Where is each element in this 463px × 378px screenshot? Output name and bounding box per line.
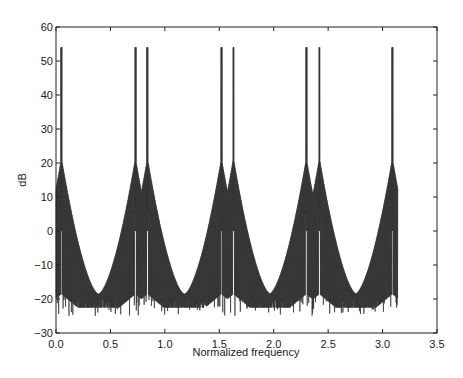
y-tick-label: 10 xyxy=(41,191,53,203)
magnitude-line xyxy=(56,47,398,315)
y-tick-label: 60 xyxy=(41,21,53,33)
y-tick-label: −20 xyxy=(34,293,53,305)
y-tick-label: 0 xyxy=(47,225,53,237)
x-tick-label: 0.5 xyxy=(103,338,118,350)
x-tick-label: 3.0 xyxy=(375,338,390,350)
chart: 0.00.51.01.52.02.53.03.5 6050403020100−1… xyxy=(0,0,463,378)
plot-series xyxy=(56,47,398,315)
y-tick-label: 20 xyxy=(41,157,53,169)
x-tick-label: 3.5 xyxy=(429,338,444,350)
x-tick-label: 2.5 xyxy=(320,338,335,350)
y-tick-label: −10 xyxy=(34,259,53,271)
y-axis-label: dB xyxy=(16,173,28,186)
y-tick-label: 30 xyxy=(41,123,53,135)
x-tick-label: 0.0 xyxy=(48,338,63,350)
y-tick-label: −30 xyxy=(34,327,53,339)
y-tick-label: 50 xyxy=(41,55,53,67)
x-axis-label: Normalized frequency xyxy=(193,346,300,358)
y-tick-label: 40 xyxy=(41,89,53,101)
x-tick-label: 1.0 xyxy=(157,338,172,350)
